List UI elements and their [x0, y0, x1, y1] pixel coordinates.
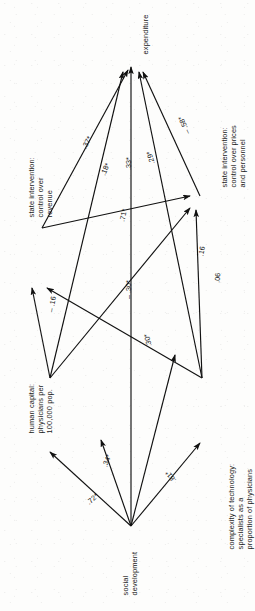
- human-capital-line3: 100,000 pop.: [45, 389, 54, 433]
- coef-16-pos: .16: [188, 244, 214, 266]
- coef-16-neg-text: – .16: [46, 296, 58, 313]
- node-label-state-prices-l3: and personnel: [230, 139, 255, 196]
- expenditure-text: expenditure: [141, 15, 150, 55]
- node-label-state-revenue-l3: revenue: [37, 190, 63, 226]
- coef-06-text: .06: [212, 273, 222, 284]
- social-development-line2: development: [130, 552, 139, 595]
- coef-29-text: .29*: [144, 150, 157, 165]
- coef-16-pos-text: .16: [196, 245, 207, 256]
- node-label-technology-l3: proportion of physicians: [237, 469, 255, 558]
- coef-58-text: – .58*: [176, 115, 192, 136]
- state-revenue-line3: revenue: [45, 190, 54, 217]
- coef-16-neg: – .16: [38, 294, 65, 322]
- coef-30-neg: – .30*: [117, 280, 140, 307]
- coef-30-pos-text: .30*: [141, 333, 153, 348]
- node-label-social-development-l2: development: [122, 552, 148, 604]
- coef-71: .71*: [109, 207, 136, 232]
- coef-30-neg-text: – .30*: [124, 280, 133, 299]
- coef-18-text: .18*: [98, 161, 111, 176]
- technology-line3: proportion of physicians: [245, 469, 254, 549]
- coef-34-text: .34*: [100, 453, 113, 468]
- state-prices-line3: and personnel: [238, 139, 247, 187]
- coef-33-text: .33*: [124, 157, 133, 170]
- coef-37-text: .37*: [80, 134, 94, 149]
- coef-33: .33*: [117, 157, 140, 178]
- coef-06: .06: [205, 272, 229, 292]
- path-diagram-figure: expenditure state intervention: control …: [0, 0, 255, 611]
- node-label-expenditure: expenditure: [133, 15, 159, 63]
- coef-71-text: .71*: [117, 208, 128, 222]
- node-label-human-capital-l3: 100,000 pop.: [37, 389, 63, 442]
- coef-81-text: .81*: [163, 469, 178, 485]
